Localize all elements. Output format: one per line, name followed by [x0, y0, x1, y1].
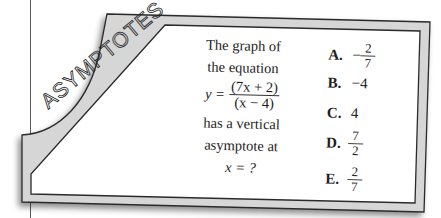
answer-denominator: 2 — [352, 144, 359, 158]
answer-choice-e[interactable]: E. 2 7 — [325, 164, 362, 194]
equation: y = (7x + 2) (x − 4) — [192, 75, 293, 113]
answer-choice-d[interactable]: D. 7 2 — [326, 128, 363, 158]
answer-denominator: 7 — [351, 180, 358, 194]
answer-value: 4 — [351, 105, 359, 122]
answer-fraction: 2 7 — [360, 41, 375, 70]
answer-numerator: 7 — [348, 129, 363, 144]
equation-lhs: y = — [205, 85, 225, 103]
answer-letter: E. — [325, 170, 347, 188]
question-line-1: The graph of — [193, 33, 294, 57]
answer-choice-b[interactable]: B. −4 — [327, 75, 367, 93]
answer-letter: D. — [326, 134, 348, 152]
question-line-3: has a vertical — [191, 111, 292, 135]
question-line-4: asymptote at — [191, 133, 292, 157]
answer-choices: A. − 2 7 B. −4 C. 4 D. 7 2 E. 2 7 — [329, 41, 419, 43]
equation-numerator: (7x + 2) — [229, 79, 280, 96]
equation-denominator: (x − 4) — [234, 95, 274, 111]
answer-letter: A. — [328, 47, 350, 65]
question-text: The graph of the equation y = (7x + 2) (… — [190, 33, 293, 179]
answer-denominator: 7 — [364, 56, 371, 70]
question-line-2: the equation — [193, 55, 294, 79]
answer-fraction: 2 7 — [347, 165, 362, 194]
answer-fraction: 7 2 — [348, 129, 363, 158]
answer-letter: C. — [327, 104, 349, 122]
answer-letter: B. — [327, 75, 349, 93]
answer-numerator: 2 — [361, 41, 376, 56]
answer-value: −4 — [351, 75, 367, 92]
equation-fraction: (7x + 2) (x − 4) — [229, 79, 281, 111]
card-content: The graph of the equation y = (7x + 2) (… — [0, 0, 441, 218]
answer-choice-c[interactable]: C. 4 — [327, 104, 359, 122]
answer-numerator: 2 — [347, 165, 362, 180]
question-line-5: x = ? — [190, 155, 291, 179]
answer-choice-a[interactable]: A. − 2 7 — [328, 41, 376, 71]
